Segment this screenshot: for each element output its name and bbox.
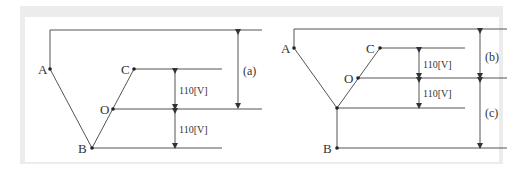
left-upper-voltage-label: 110[V] xyxy=(179,85,208,96)
right-lower-voltage-label: 110[V] xyxy=(423,88,452,99)
right-diagram: A B C O 110[V] 110[V] (b) (c) xyxy=(281,29,507,156)
right-measure-c-label: (c) xyxy=(485,106,498,120)
left-point-b xyxy=(90,146,94,150)
left-diagram: A B C O 110[V] 110[V] (a) xyxy=(38,30,262,156)
left-label-c: C xyxy=(121,62,130,77)
right-upper-voltage-label: 110[V] xyxy=(423,59,452,70)
circuit-diagrams: A B C O 110[V] 110[V] (a) A B xyxy=(0,0,523,169)
right-measure-b-label: (b) xyxy=(485,50,499,64)
right-point-o xyxy=(356,76,360,80)
right-label-b: B xyxy=(323,141,332,156)
right-point-c xyxy=(378,46,382,50)
left-point-c xyxy=(132,67,136,71)
left-top-line xyxy=(50,30,262,69)
left-measure-a-label: (a) xyxy=(243,64,256,78)
left-label-o: O xyxy=(100,102,109,117)
right-top-line xyxy=(294,29,507,48)
right-label-c: C xyxy=(366,41,375,56)
left-label-a: A xyxy=(38,62,48,77)
right-point-b xyxy=(335,146,339,150)
left-lower-voltage-label: 110[V] xyxy=(179,124,208,135)
right-vertex-point xyxy=(335,106,339,110)
left-point-a xyxy=(48,67,52,71)
left-point-o xyxy=(111,107,115,111)
right-point-a xyxy=(292,46,296,50)
right-label-a: A xyxy=(281,41,291,56)
left-label-b: B xyxy=(78,141,87,156)
left-line-ab xyxy=(50,69,92,148)
right-line-a-vertex xyxy=(294,48,337,108)
right-label-o: O xyxy=(344,71,353,86)
